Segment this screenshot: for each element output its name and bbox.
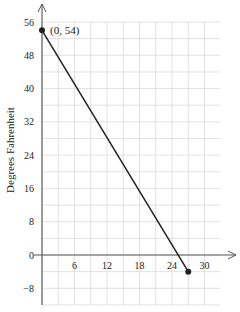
- series-line: [42, 30, 188, 271]
- y-tick-label: 56: [24, 17, 34, 28]
- y-tick-label: 16: [24, 183, 34, 194]
- y-axis-label: Degrees Fahrenheit: [4, 107, 16, 193]
- y-tick-label: −8: [23, 283, 34, 294]
- y-tick-label: 8: [29, 216, 34, 227]
- y-tick-label: 48: [24, 50, 34, 61]
- x-tick-label: 12: [102, 260, 112, 271]
- y-tick-label: 40: [24, 83, 34, 94]
- x-tick-label: 24: [167, 260, 177, 271]
- y-tick-label: 24: [24, 150, 34, 161]
- y-tick-label: 32: [24, 116, 34, 127]
- x-tick-label: 30: [200, 260, 210, 271]
- data-point: [39, 27, 45, 33]
- x-tick-label: 6: [72, 260, 77, 271]
- y-tick-label: 0: [29, 250, 34, 261]
- grid: [42, 22, 220, 305]
- chart: 61218243056484032241680−8 (0, 54) Degree…: [0, 0, 240, 312]
- data-point: [185, 269, 191, 275]
- x-tick-label: 18: [135, 260, 145, 271]
- data-series: (0, 54): [39, 24, 191, 275]
- point-annotation: (0, 54): [50, 24, 80, 37]
